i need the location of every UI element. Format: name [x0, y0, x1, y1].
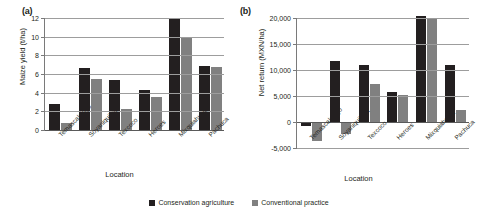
y-tick	[293, 70, 297, 71]
y-tick	[41, 18, 45, 19]
legend-swatch-icon	[149, 200, 155, 206]
y-tick	[41, 55, 45, 56]
gridline	[45, 37, 224, 38]
chart-panel-b: (b) Net return (MXN/ha) -5,00005,00010,0…	[239, 0, 478, 188]
y-tick-label: 15,000	[270, 41, 291, 48]
chart-panel-a: (a) Maize yield (t/ha) 024681012 Temasca…	[0, 0, 239, 188]
figure: (a) Maize yield (t/ha) 024681012 Temasca…	[0, 0, 478, 210]
panel-a-x-axis-title: Location	[0, 170, 239, 179]
gridline	[297, 70, 469, 71]
gridline	[297, 96, 469, 97]
bar	[181, 37, 192, 130]
y-tick-label: 0	[287, 119, 291, 126]
panel-b-y-axis-title: Net return (MXN/ha)	[257, 17, 266, 109]
y-tick-label: 10	[31, 33, 39, 40]
y-tick-label: 20,000	[270, 15, 291, 22]
legend-label: Conventional practice	[261, 199, 328, 206]
y-tick-label: 10,000	[270, 67, 291, 74]
y-tick	[41, 111, 45, 112]
y-tick-label: 6	[35, 71, 39, 78]
gridline	[45, 93, 224, 94]
legend-label: Conservation agriculture	[158, 199, 234, 206]
y-tick-label: 2	[35, 108, 39, 115]
bar	[456, 110, 466, 122]
y-tick-label: -5,000	[271, 145, 291, 152]
bar	[79, 68, 90, 130]
y-tick	[293, 148, 297, 149]
y-tick	[293, 122, 297, 123]
legend-swatch-icon	[252, 200, 258, 206]
gridline	[297, 44, 469, 45]
y-tick-label: 8	[35, 52, 39, 59]
legend-item: Conservation agriculture	[149, 199, 234, 206]
gridline	[45, 74, 224, 75]
chart-legend: Conservation agricultureConventional pra…	[0, 199, 478, 206]
zero-axis-line	[45, 130, 224, 131]
y-tick	[293, 44, 297, 45]
y-tick-label: 4	[35, 89, 39, 96]
bar	[49, 104, 60, 130]
gridline	[297, 18, 469, 19]
y-tick	[41, 93, 45, 94]
y-tick	[293, 18, 297, 19]
y-tick	[293, 96, 297, 97]
y-tick	[41, 130, 45, 131]
y-tick-label: 12	[31, 15, 39, 22]
gridline	[45, 55, 224, 56]
gridline	[45, 18, 224, 19]
panel-b-label: (b)	[240, 6, 251, 16]
legend-item: Conventional practice	[252, 199, 328, 206]
y-tick-label: 5,000	[273, 93, 291, 100]
y-tick-label: 0	[35, 127, 39, 134]
panel-a-y-axis-title: Maize yield (t/ha)	[18, 17, 27, 97]
y-tick	[41, 37, 45, 38]
panel-b-x-axis-title: Location	[239, 174, 478, 183]
bar	[370, 84, 380, 122]
gridline	[297, 148, 469, 149]
bar	[139, 90, 150, 130]
bar	[398, 95, 408, 122]
y-tick	[41, 74, 45, 75]
bar	[199, 66, 210, 130]
